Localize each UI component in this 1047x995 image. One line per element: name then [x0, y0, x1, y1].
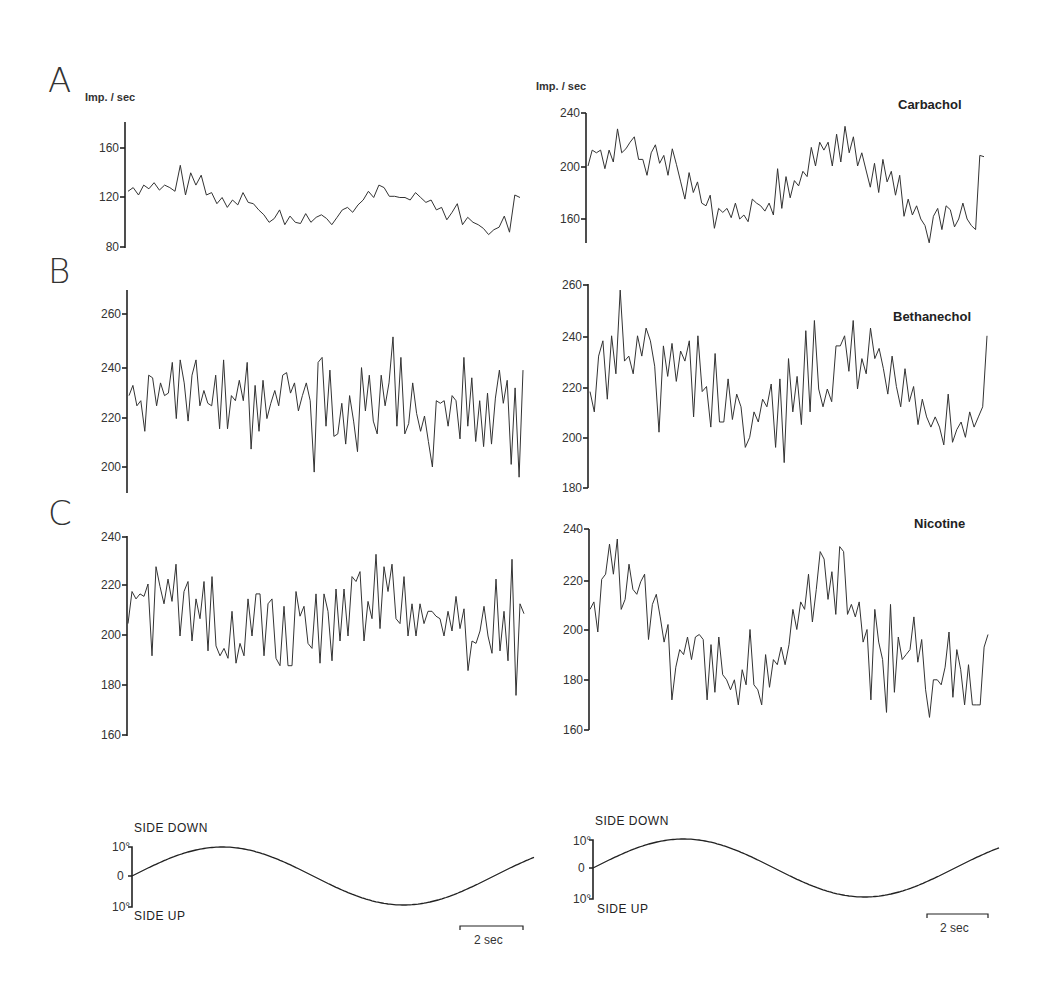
trace-panel-b-left: 260240220200 — [101, 290, 523, 493]
y-tick-label: 200 — [101, 460, 121, 474]
tick-10-down: 10° — [112, 900, 130, 914]
firing-rate-trace — [590, 539, 988, 717]
scale-bar-label: 2 sec — [474, 933, 503, 947]
side-down-label: SIDE DOWN — [595, 814, 669, 828]
trace-panel-c-left: 240220200180160 — [101, 530, 524, 742]
y-tick-label: 260 — [562, 278, 582, 292]
trace-panel-a-left: 16012080 — [99, 122, 520, 254]
drug-label-nicotine: Nicotine — [914, 516, 965, 531]
y-tick-label: 200 — [101, 628, 121, 642]
tick-10-up: 10° — [573, 834, 591, 848]
y-tick-label: 180 — [562, 481, 582, 495]
unit-label-left: Imp. / sec — [85, 91, 135, 103]
tilt-sine-trace — [132, 847, 534, 905]
tick-0: 0 — [578, 861, 585, 875]
firing-rate-trace — [128, 554, 524, 695]
figure-canvas: A B C Imp. / sec Imp. / sec Carbachol Be… — [0, 0, 1047, 995]
y-tick-label: 180 — [101, 678, 121, 692]
y-tick-label: 160 — [563, 723, 583, 737]
y-tick-label: 240 — [560, 106, 580, 120]
firing-rate-trace — [129, 337, 523, 477]
side-down-label: SIDE DOWN — [134, 821, 208, 835]
y-tick-label: 180 — [563, 673, 583, 687]
y-tick-label: 160 — [99, 141, 119, 155]
y-tick-label: 220 — [562, 381, 582, 395]
scale-bar-label: 2 sec — [940, 921, 969, 935]
y-tick-label: 220 — [101, 411, 121, 425]
y-tick-label: 160 — [101, 728, 121, 742]
drug-label-carbachol: Carbachol — [898, 97, 962, 112]
y-tick-label: 240 — [101, 530, 121, 544]
y-tick-label: 240 — [101, 361, 121, 375]
y-tick-label: 260 — [101, 307, 121, 321]
tick-10-down: 10° — [573, 892, 591, 906]
tick-10-up: 10° — [112, 840, 130, 854]
y-tick-label: 80 — [106, 240, 120, 254]
panel-label-c: C — [48, 493, 72, 533]
scale-bar — [927, 914, 988, 918]
y-tick-label: 220 — [101, 578, 121, 592]
tick-0: 0 — [117, 869, 124, 883]
y-tick-label: 200 — [560, 160, 580, 174]
tilt-sine-trace — [593, 839, 999, 897]
y-tick-label: 160 — [560, 212, 580, 226]
y-tick-label: 240 — [563, 522, 583, 536]
trace-plots: 1601208024020016026024022020026024022020… — [99, 106, 988, 742]
scale-bar — [460, 926, 523, 930]
stimulus-right: SIDE DOWN SIDE UP 10° 0 10° 2 sec — [573, 814, 999, 935]
stimulus-left: SIDE DOWN SIDE UP 10° 0 10° 2 sec — [112, 821, 534, 947]
side-up-label: SIDE UP — [597, 902, 649, 916]
stimulus-axis — [128, 847, 132, 907]
trace-panel-a-right: 240200160 — [560, 106, 984, 243]
firing-rate-trace — [128, 165, 520, 234]
unit-label-right: Imp. / sec — [536, 80, 586, 92]
side-up-label: SIDE UP — [134, 909, 186, 923]
y-tick-label: 220 — [563, 574, 583, 588]
y-tick-label: 200 — [562, 431, 582, 445]
drug-label-bethanechol: Bethanechol — [893, 309, 971, 324]
y-tick-label: 200 — [563, 623, 583, 637]
trace-panel-c-right: 240220200180160 — [563, 522, 988, 737]
firing-rate-trace — [588, 126, 984, 243]
stimulus-axis — [589, 840, 593, 899]
y-tick-label: 240 — [562, 330, 582, 344]
panel-label-b: B — [48, 251, 70, 291]
panel-label-a: A — [48, 60, 71, 100]
y-tick-label: 120 — [99, 190, 119, 204]
